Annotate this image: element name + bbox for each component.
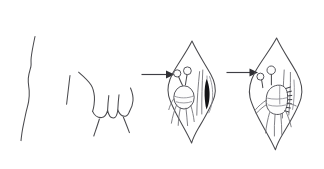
insect-leg-3-4 — [191, 105, 194, 121]
panel-2-branching-stalk-form — [67, 72, 133, 136]
spine-4-1 — [286, 87, 290, 88]
arch-right-outline — [129, 88, 133, 112]
insect-leg-4-7 — [288, 103, 296, 106]
insect-body-4 — [266, 85, 288, 114]
arch-outline — [79, 72, 95, 111]
arrow-panel2-to-panel3 — [142, 71, 175, 79]
left-slant-stroke — [67, 76, 70, 105]
dark-lens-body — [205, 79, 210, 109]
lower-lobe-outline — [93, 110, 130, 118]
finger-stroke-1 — [108, 96, 109, 111]
antenna-knob-right-3 — [184, 67, 192, 75]
stalked-knob-right-4 — [267, 66, 275, 74]
trailing-stroke-left — [94, 119, 100, 136]
antenna-stalk-right-3 — [185, 75, 187, 85]
antenna-knob-left-3 — [174, 70, 181, 77]
trailing-stroke-right — [123, 117, 129, 132]
panel-3-pod-with-insect-and-dark-body — [168, 41, 216, 143]
drawing-surface — [0, 0, 324, 169]
insect-leg-3-2 — [178, 108, 180, 126]
spine-4-2 — [287, 91, 291, 92]
finger-stroke-2 — [118, 95, 119, 110]
panel-4-pod-with-spined-insect — [249, 38, 302, 150]
stem-line — [21, 37, 35, 141]
spine-4-6 — [286, 107, 290, 108]
insect-leg-4-4 — [274, 115, 275, 136]
pod-vein-3-a — [197, 72, 200, 116]
insect-leg-4-3 — [266, 113, 270, 133]
insect-leg-3-3 — [186, 108, 188, 125]
stalked-knob-left-4 — [257, 73, 264, 80]
insect-leg-4-2 — [256, 104, 267, 113]
panel-1-vertical-wavy-stem — [21, 37, 35, 141]
insect-leg-3-1 — [171, 105, 176, 123]
insect-leg-4-5 — [281, 115, 282, 135]
pod-vein-3-b — [202, 70, 203, 114]
stalked-stem-left-4 — [262, 80, 263, 88]
pod-vein-4-b — [289, 72, 291, 115]
spine-4-3 — [288, 95, 292, 96]
antenna-stalk-left-3 — [179, 77, 183, 86]
sketch-canvas: Hand-drawn sketch sequence A single long… — [0, 0, 324, 169]
